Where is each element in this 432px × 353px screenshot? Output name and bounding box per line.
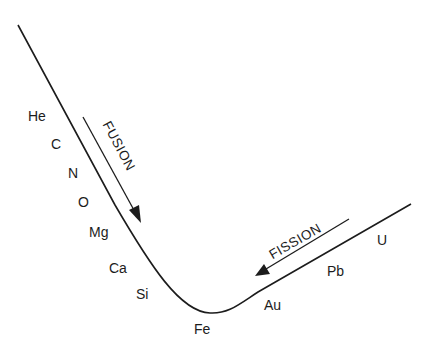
element-label-he: He [28, 109, 46, 123]
element-label-pb: Pb [327, 264, 344, 278]
element-label-ca: Ca [109, 261, 127, 275]
element-label-si: Si [136, 287, 148, 301]
element-label-mg: Mg [89, 225, 108, 239]
element-label-o: O [78, 195, 89, 209]
diagram-canvas [0, 0, 432, 353]
element-label-u: U [377, 233, 387, 247]
element-label-fe: Fe [194, 322, 210, 336]
element-label-c: C [51, 137, 61, 151]
element-label-n: N [68, 166, 78, 180]
element-label-au: Au [264, 298, 281, 312]
